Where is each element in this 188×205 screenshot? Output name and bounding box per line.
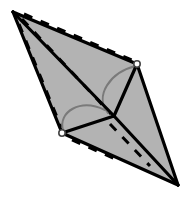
- geometry-figure: [0, 0, 188, 205]
- solid-edges-group: [13, 12, 178, 185]
- vertex-marker-lower-left: [59, 130, 65, 136]
- geometry-canvas: [0, 0, 188, 205]
- vertex-marker-upper-right: [134, 61, 140, 67]
